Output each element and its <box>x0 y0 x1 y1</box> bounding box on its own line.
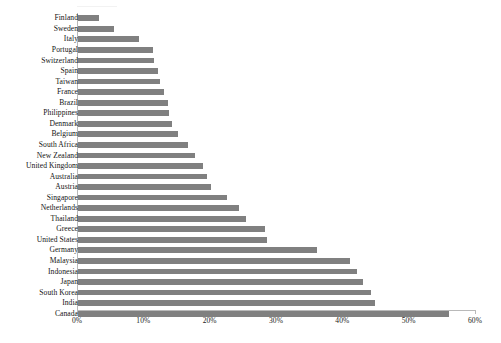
bar-category-label: Brazil <box>0 98 78 108</box>
bar <box>78 174 207 180</box>
bar-category-label: Indonesia <box>0 267 78 277</box>
bar <box>78 110 169 116</box>
bar-row: Philippines <box>0 108 501 119</box>
bar <box>78 100 168 106</box>
bar-row: Thailand <box>0 213 501 224</box>
bar-track <box>78 298 475 309</box>
bar-track <box>78 161 475 172</box>
bar-track <box>78 87 475 98</box>
bar-row: Portugal <box>0 45 501 56</box>
bar-category-label: Greece <box>0 224 78 234</box>
bar-track <box>78 287 475 298</box>
bar-track <box>78 34 475 45</box>
bar <box>78 26 114 32</box>
bar-track <box>78 140 475 151</box>
bar-track <box>78 129 475 140</box>
bar-row: Malaysia <box>0 256 501 267</box>
bar-row: Switzerland <box>0 55 501 66</box>
bar-track <box>78 171 475 182</box>
bar <box>78 216 246 222</box>
bar-category-label: South Africa <box>0 140 78 150</box>
bar <box>78 36 139 42</box>
bar-category-label: Sweden <box>0 24 78 34</box>
bar-category-label: Taiwan <box>0 77 78 87</box>
bar-row: Australia <box>0 171 501 182</box>
bar-category-label: United States <box>0 235 78 245</box>
bar-track <box>78 97 475 108</box>
bar-category-label: Australia <box>0 172 78 182</box>
bar-category-label: South Korea <box>0 288 78 298</box>
plot-area: 0%10%20%30%40%50%60% FinlandSwedenItalyP… <box>0 0 501 343</box>
bar-track <box>78 245 475 256</box>
bar-track <box>78 45 475 56</box>
bar-row: South Korea <box>0 287 501 298</box>
bar-row: Sweden <box>0 24 501 35</box>
bar-row: Denmark <box>0 118 501 129</box>
bar-track <box>78 277 475 288</box>
bar <box>78 226 265 232</box>
bar-category-label: United Kingdom <box>0 161 78 171</box>
bar-track <box>78 308 475 319</box>
bar-category-label: Germany <box>0 245 78 255</box>
bar-row: Brazil <box>0 97 501 108</box>
bar-category-label: Austria <box>0 182 78 192</box>
bar-row: New Zealand <box>0 150 501 161</box>
bar-row: Germany <box>0 245 501 256</box>
bar-track <box>78 76 475 87</box>
bar-row: Singapore <box>0 192 501 203</box>
bar-row: Greece <box>0 224 501 235</box>
bar-row: Belgium <box>0 129 501 140</box>
bar-track <box>78 150 475 161</box>
bar-category-label: Philippines <box>0 108 78 118</box>
bar-row: Indonesia <box>0 266 501 277</box>
bar-row: South Africa <box>0 140 501 151</box>
bar-track <box>78 24 475 35</box>
bar-track <box>78 108 475 119</box>
bar-category-label: India <box>0 298 78 308</box>
bar <box>78 121 172 127</box>
bar <box>78 79 160 85</box>
bar-chart-figure: 0%10%20%30%40%50%60% FinlandSwedenItalyP… <box>0 0 501 343</box>
bar-category-label: Canada <box>0 309 78 319</box>
bar-track <box>78 203 475 214</box>
bar-category-label: Switzerland <box>0 56 78 66</box>
bar-category-label: Spain <box>0 66 78 76</box>
bar-category-label: Japan <box>0 277 78 287</box>
bar <box>78 131 178 137</box>
bar-track <box>78 192 475 203</box>
bar <box>78 237 267 243</box>
bar-category-label: Netherlands <box>0 203 78 213</box>
bar-row: Austria <box>0 182 501 193</box>
bar-track <box>78 266 475 277</box>
bar <box>78 142 188 148</box>
bar-category-label: Denmark <box>0 119 78 129</box>
bar-category-label: Italy <box>0 34 78 44</box>
bar-row: France <box>0 87 501 98</box>
bar-track <box>78 256 475 267</box>
bar <box>78 311 449 317</box>
bar <box>78 184 211 190</box>
bar-category-label: Singapore <box>0 193 78 203</box>
bar-row: India <box>0 298 501 309</box>
bar <box>78 15 99 21</box>
top-edge-artifact <box>77 6 117 7</box>
bar <box>78 163 203 169</box>
bar-rows: FinlandSwedenItalyPortugalSwitzerlandSpa… <box>0 13 501 319</box>
bar-category-label: Belgium <box>0 129 78 139</box>
bar <box>78 279 363 285</box>
bar-row: Japan <box>0 277 501 288</box>
bar-category-label: New Zealand <box>0 151 78 161</box>
bar <box>78 47 153 53</box>
bar-category-label: Malaysia <box>0 256 78 266</box>
bar-row: Taiwan <box>0 76 501 87</box>
bar-category-label: Thailand <box>0 214 78 224</box>
bar <box>78 269 357 275</box>
bar <box>78 205 239 211</box>
bar-row: Finland <box>0 13 501 24</box>
bar-row: Canada <box>0 308 501 319</box>
bar-row: Spain <box>0 66 501 77</box>
bar <box>78 195 227 201</box>
bar <box>78 89 164 95</box>
bar <box>78 58 154 64</box>
bar-row: United States <box>0 234 501 245</box>
